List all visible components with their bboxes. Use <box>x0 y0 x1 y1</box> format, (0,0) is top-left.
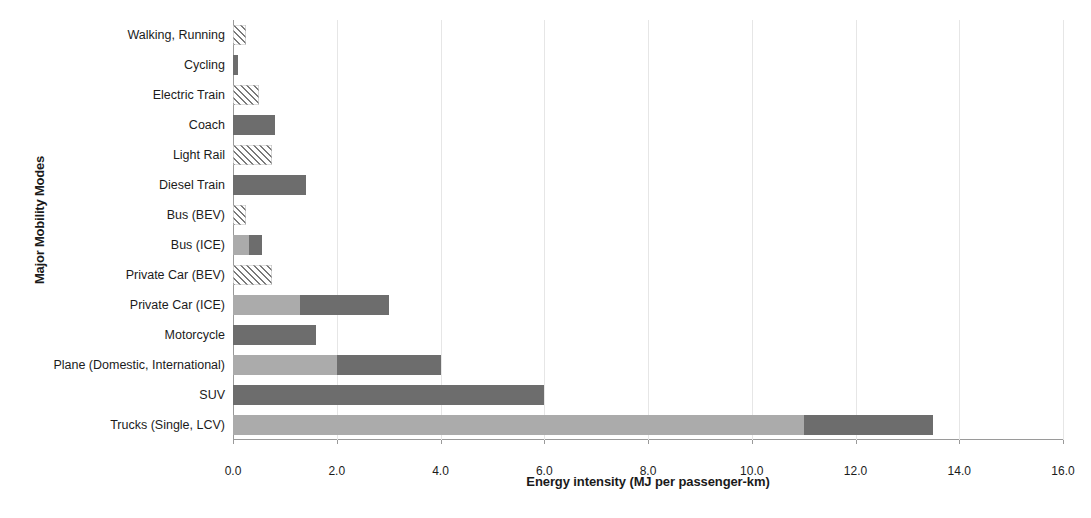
bar-segment <box>300 295 388 315</box>
gridline <box>544 20 545 440</box>
category-label: Bus (BEV) <box>30 205 225 225</box>
bar-row <box>233 115 1063 135</box>
category-label: Walking, Running <box>30 25 225 45</box>
gridline <box>1063 20 1064 440</box>
x-axis-tick <box>856 440 857 444</box>
gridline <box>337 20 338 440</box>
x-axis-tick <box>752 440 753 444</box>
bar-row <box>233 55 1063 75</box>
category-label: Bus (ICE) <box>30 235 225 255</box>
category-label: Coach <box>30 115 225 135</box>
energy-intensity-bar-chart: Major Mobility Modes Walking, RunningCyc… <box>0 0 1091 518</box>
category-label: Private Car (BEV) <box>30 265 225 285</box>
category-label-column: Walking, RunningCyclingElectric TrainCoa… <box>30 20 225 440</box>
bar-segment <box>804 415 934 435</box>
category-label: Diesel Train <box>30 175 225 195</box>
category-label: Plane (Domestic, International) <box>30 355 225 375</box>
bar-segment <box>233 325 316 345</box>
bar-segment <box>233 145 272 165</box>
bar-segment <box>233 115 275 135</box>
category-label: Trucks (Single, LCV) <box>30 415 225 435</box>
bar-row <box>233 145 1063 165</box>
category-label: SUV <box>30 385 225 405</box>
bar-segment <box>233 295 300 315</box>
bar-row <box>233 325 1063 345</box>
bar-row <box>233 235 1063 255</box>
bar-segment <box>233 205 246 225</box>
x-axis-tick <box>648 440 649 444</box>
gridline <box>856 20 857 440</box>
x-axis-tick <box>544 440 545 444</box>
bar-segment <box>233 355 337 375</box>
x-axis-tick <box>441 440 442 444</box>
bar-segment <box>233 235 249 255</box>
gridline <box>441 20 442 440</box>
plot-area: 0.02.04.06.08.010.012.014.016.0 <box>233 20 1063 440</box>
gridline <box>648 20 649 440</box>
bar-row <box>233 265 1063 285</box>
bar-row <box>233 205 1063 225</box>
bar-row <box>233 85 1063 105</box>
bar-segment <box>233 265 272 285</box>
bar-row <box>233 385 1063 405</box>
bar-segment <box>233 25 246 45</box>
y-axis-line <box>233 20 234 440</box>
gridline <box>752 20 753 440</box>
x-axis-tick <box>959 440 960 444</box>
x-axis-tick <box>1063 440 1064 444</box>
bar-segment <box>233 85 259 105</box>
category-label: Private Car (ICE) <box>30 295 225 315</box>
x-axis-tick <box>337 440 338 444</box>
gridline <box>959 20 960 440</box>
category-label: Motorcycle <box>30 325 225 345</box>
bar-segment <box>233 175 306 195</box>
bar-segment <box>337 355 441 375</box>
category-label: Electric Train <box>30 85 225 105</box>
x-axis-tick <box>233 440 234 444</box>
bar-row <box>233 295 1063 315</box>
bar-row <box>233 25 1063 45</box>
bar-row <box>233 355 1063 375</box>
bar-segment <box>233 415 804 435</box>
bar-segment <box>233 385 544 405</box>
category-label: Light Rail <box>30 145 225 165</box>
category-label: Cycling <box>30 55 225 75</box>
x-axis-title: Energy intensity (MJ per passenger-km) <box>233 474 1063 489</box>
bar-row <box>233 175 1063 195</box>
bar-row <box>233 415 1063 435</box>
bar-segment <box>249 235 262 255</box>
bar-segment <box>233 55 238 75</box>
